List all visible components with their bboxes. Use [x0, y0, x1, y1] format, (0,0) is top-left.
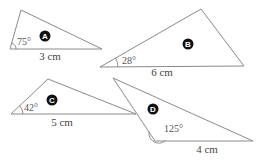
triangle-c-angle-arc: [20, 106, 23, 114]
triangle-c: 42° C 5 cm: [11, 79, 136, 128]
triangle-a-side-label: 3 cm: [39, 50, 61, 62]
triangle-b-side-label: 6 cm: [151, 66, 173, 78]
triangle-d-angle-label: 125°: [164, 123, 183, 134]
triangle-a: 75° A 3 cm: [10, 10, 102, 62]
triangle-b-angle-label: 28°: [122, 55, 136, 66]
triangle-a-angle-label: 75°: [17, 36, 31, 47]
triangle-c-angle-label: 42°: [24, 102, 38, 113]
triangle-d-shape: [113, 78, 253, 141]
triangle-a-badge-letter: A: [42, 32, 48, 41]
triangle-b-badge-letter: B: [185, 40, 191, 49]
triangle-c-side-label: 5 cm: [51, 116, 73, 128]
triangles-diagram: 75° A 3 cm 28° B 6 cm 42° C 5 cm 125° D …: [0, 0, 256, 162]
triangle-c-badge-letter: C: [49, 96, 55, 105]
triangle-a-angle-arc: [12, 43, 16, 49]
triangle-d-badge-letter: D: [150, 105, 156, 114]
triangle-d-side-label: 4 cm: [196, 143, 218, 155]
triangle-d: 125° D 4 cm: [113, 78, 253, 155]
triangle-b-angle-arc: [116, 58, 118, 67]
triangle-b: 28° B 6 cm: [100, 9, 244, 78]
